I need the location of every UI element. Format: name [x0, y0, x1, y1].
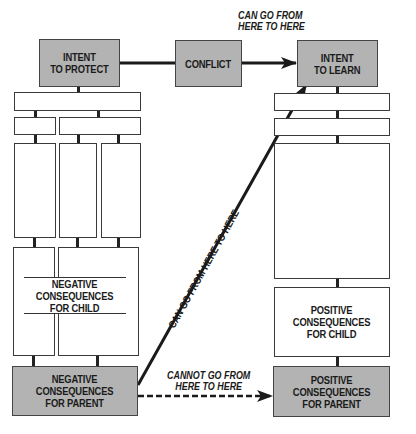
connector [32, 356, 35, 366]
left-row3-box-a [14, 143, 56, 238]
negative-consequences-parent-box: NEGATIVE CONSEQUENCES FOR PARENT [12, 366, 138, 416]
connector [336, 357, 339, 366]
conflict-label: CONFLICT [186, 58, 232, 70]
left-row1-box [14, 92, 141, 111]
positive-consequences-parent-label: POSITIVE CONSEQUENCES FOR PARENT [293, 374, 370, 410]
positive-consequences-child-label: POSITIVE CONSEQUENCES FOR CHILD [293, 304, 370, 340]
connector [34, 135, 37, 143]
connector [96, 356, 99, 366]
left-row3-box-b [59, 143, 97, 238]
right-row3-box [274, 143, 390, 279]
intent-to-protect-label: INTENT TO PROTECT [50, 51, 108, 75]
intent-to-learn-box: INTENT TO LEARN [297, 40, 378, 87]
negative-consequences-child-label: NEGATIVE CONSEQUENCES FOR CHILD [36, 278, 113, 314]
left-row3-box-c [101, 143, 141, 238]
dashed-arrow-note: CANNOT GO FROM HERE TO HERE [167, 370, 250, 392]
conflict-box: CONFLICT [175, 40, 242, 87]
positive-consequences-parent-box: POSITIVE CONSEQUENCES FOR PARENT [273, 366, 390, 417]
intent-to-learn-label: INTENT TO LEARN [314, 52, 360, 76]
negative-consequences-parent-label: NEGATIVE CONSEQUENCES FOR PARENT [36, 373, 113, 409]
connector [336, 279, 339, 287]
left-row2-box-a [14, 117, 56, 135]
right-row1-box [274, 93, 390, 111]
right-row2-box [274, 118, 390, 136]
positive-consequences-child-box: POSITIVE CONSEQUENCES FOR CHILD [274, 287, 390, 357]
connector [77, 135, 80, 143]
top-arrow-note: CAN GO FROM HERE TO HERE [238, 10, 305, 32]
connector [117, 238, 120, 247]
connector [336, 111, 339, 118]
connector [33, 238, 36, 247]
connector [336, 136, 339, 143]
connector [76, 238, 79, 247]
intent-to-protect-box: INTENT TO PROTECT [39, 39, 120, 87]
connector [117, 135, 120, 143]
negative-consequences-child-band: NEGATIVE CONSEQUENCES FOR CHILD [24, 277, 126, 314]
left-row2-box-b [59, 117, 141, 135]
